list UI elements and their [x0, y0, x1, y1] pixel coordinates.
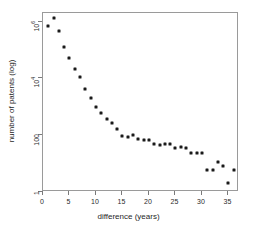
data-point [84, 88, 87, 91]
x-axis-tick [95, 191, 96, 195]
x-axis-tick [121, 191, 122, 195]
data-point [68, 57, 71, 60]
x-axis-label: difference (years) [0, 213, 257, 221]
x-axis-tick-label: 10 [91, 198, 99, 205]
patents-decay-scatter-chart: 05101520253035 1100104106 difference (ye… [0, 0, 257, 235]
x-axis-tick-label: 5 [67, 198, 71, 205]
data-point [206, 168, 209, 171]
y-axis-tick-label: 1 [33, 191, 40, 195]
data-point [63, 45, 66, 48]
data-point [169, 143, 172, 146]
data-point [190, 151, 193, 154]
x-axis-tick-label: 15 [118, 198, 126, 205]
x-axis-tick [227, 191, 228, 195]
x-axis-tick [174, 191, 175, 195]
y-axis-tick-label: 100 [33, 134, 40, 146]
data-point [174, 146, 177, 149]
data-point [126, 136, 129, 139]
data-point [158, 143, 161, 146]
data-point [195, 151, 198, 154]
data-point [179, 146, 182, 149]
data-point [132, 133, 135, 136]
data-point [227, 182, 230, 185]
x-axis-tick [68, 191, 69, 195]
data-point [153, 143, 156, 146]
data-point [147, 138, 150, 141]
y-axis-label: number of patents (log) [8, 60, 16, 143]
data-point [100, 112, 103, 115]
x-axis-tick-label: 20 [144, 198, 152, 205]
data-point [116, 127, 119, 130]
data-point [200, 151, 203, 154]
x-axis-tick-label: 0 [40, 198, 44, 205]
data-point [94, 105, 97, 108]
plot-frame [42, 12, 238, 191]
data-point [73, 68, 76, 71]
y-axis-tick-label: 104 [33, 77, 40, 88]
data-point [163, 142, 166, 145]
data-point [121, 134, 124, 137]
x-axis-tick-label: 25 [171, 198, 179, 205]
plot-area [43, 13, 237, 190]
data-point [211, 168, 214, 171]
data-point [110, 122, 113, 125]
x-axis-tick-label: 30 [197, 198, 205, 205]
data-point [52, 17, 55, 20]
x-axis-tick [201, 191, 202, 195]
data-point [89, 97, 92, 100]
x-axis-tick [148, 191, 149, 195]
data-point [222, 165, 225, 168]
x-axis-tick-label: 35 [223, 198, 231, 205]
data-point [57, 30, 60, 33]
data-point [185, 147, 188, 150]
y-axis-tick-label: 106 [33, 21, 40, 32]
data-point [105, 117, 108, 120]
data-point [137, 138, 140, 141]
x-axis-tick [42, 191, 43, 195]
data-point [47, 24, 50, 27]
data-point [79, 76, 82, 79]
data-point [142, 138, 145, 141]
data-point [232, 168, 235, 171]
data-point [216, 161, 219, 164]
